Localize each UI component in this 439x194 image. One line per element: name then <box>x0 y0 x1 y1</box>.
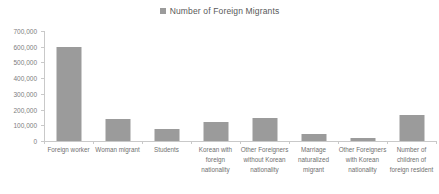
y-axis-tick-label: 200,000 <box>14 106 38 113</box>
x-axis-category-label: Foreign worker <box>44 145 93 155</box>
x-axis-category-label: Marriage naturalized migrant <box>289 145 338 175</box>
bar[interactable] <box>203 122 228 141</box>
x-axis-tick <box>44 141 45 144</box>
bar[interactable] <box>56 47 81 141</box>
x-axis-tick <box>93 141 94 144</box>
y-axis-tick-label: 700,000 <box>14 28 38 35</box>
y-axis-tick-label: 500,000 <box>14 59 38 66</box>
chart-title: Number of Foreign Migrants <box>170 6 280 16</box>
x-axis-category-label: Other Foreigners without Korean national… <box>240 145 289 175</box>
y-axis-tick-label: 400,000 <box>14 75 38 82</box>
bars-layer <box>44 31 436 141</box>
y-axis-tick-label: 300,000 <box>14 90 38 97</box>
bar[interactable] <box>301 134 326 141</box>
x-axis-tick <box>436 141 437 144</box>
x-axis-tick <box>387 141 388 144</box>
plot-area: 700,000600,000500,000400,000300,000200,0… <box>44 31 436 141</box>
x-axis-category-label: Korean with foreign nationality <box>191 145 240 175</box>
x-axis-tick <box>142 141 143 144</box>
y-axis-tick-label: 100,000 <box>14 122 38 129</box>
bar[interactable] <box>252 118 277 141</box>
x-axis-category-label: Number of children of foreign resident <box>387 145 436 175</box>
bar[interactable] <box>154 129 179 141</box>
bar-slot <box>44 31 93 141</box>
x-axis-category-label: Other Foreigners with Korean nationality <box>338 145 387 175</box>
x-axis-tick <box>191 141 192 144</box>
bar-slot <box>289 31 338 141</box>
x-axis-tick <box>338 141 339 144</box>
chart-legend: Number of Foreign Migrants <box>0 6 439 16</box>
bar-slot <box>387 31 436 141</box>
x-axis-category-label: Students <box>142 145 191 155</box>
bar-slot <box>93 31 142 141</box>
bar[interactable] <box>105 119 130 141</box>
x-axis-tick <box>240 141 241 144</box>
y-axis-tick-label: 600,000 <box>14 43 38 50</box>
legend-color-swatch-icon <box>160 8 166 14</box>
bar-slot <box>191 31 240 141</box>
bar-slot <box>240 31 289 141</box>
y-axis-tick-label: 0 <box>33 138 37 145</box>
bar-chart: Number of Foreign Migrants 700,000600,00… <box>0 0 439 194</box>
x-axis-tick <box>289 141 290 144</box>
x-axis-labels: Foreign workerWoman migrantStudentsKorea… <box>44 145 436 193</box>
bar[interactable] <box>399 115 424 141</box>
bar-slot <box>142 31 191 141</box>
bar-slot <box>338 31 387 141</box>
bar[interactable] <box>350 138 375 141</box>
x-axis-category-label: Woman migrant <box>93 145 142 155</box>
